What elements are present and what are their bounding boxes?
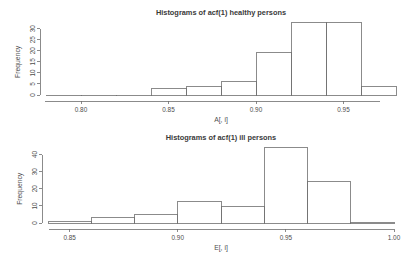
histogram-bar xyxy=(48,221,91,223)
histogram-bar xyxy=(264,148,307,223)
y-tick-label: 0 xyxy=(31,221,38,225)
histogram-bar xyxy=(81,95,116,96)
y-axis-label: Frequency xyxy=(14,45,22,78)
histogram-bar xyxy=(46,95,81,96)
x-tick-label: 0.80 xyxy=(75,106,88,113)
x-axis-label: A[, i] xyxy=(214,116,228,124)
x-tick-label: 1.00 xyxy=(388,234,401,241)
histogram-bar xyxy=(186,86,221,95)
histogram-bar xyxy=(291,22,326,95)
histogram-panel-healthy: Histograms of acf(1) healthy persons0510… xyxy=(0,0,417,128)
histogram-bar xyxy=(308,182,351,223)
histogram-panel-ill: Histograms of acf(1) ill persons01020304… xyxy=(0,128,417,256)
histogram-bar xyxy=(91,218,134,223)
y-axis-label: Frequency xyxy=(16,172,24,205)
x-tick-label: 0.85 xyxy=(63,234,76,241)
histogram-plot-ill: Histograms of acf(1) ill persons01020304… xyxy=(0,128,417,256)
histogram-bar xyxy=(351,222,394,223)
histogram-bar xyxy=(221,82,256,95)
chart-title: Histograms of acf(1) ill persons xyxy=(166,133,276,142)
chart-title: Histograms of acf(1) healthy persons xyxy=(156,8,286,17)
x-tick-label: 0.85 xyxy=(162,106,175,113)
histogram-bar xyxy=(116,95,151,96)
y-tick-label: 5 xyxy=(29,82,36,86)
y-tick-label: 30 xyxy=(31,168,38,176)
histogram-bar xyxy=(151,88,186,95)
x-tick-label: 0.95 xyxy=(280,234,293,241)
y-tick-label: 0 xyxy=(29,93,36,97)
y-tick-label: 30 xyxy=(29,25,36,33)
histogram-bar xyxy=(256,53,291,95)
histogram-bar xyxy=(135,214,178,223)
y-tick-label: 20 xyxy=(31,185,38,193)
x-tick-label: 0.90 xyxy=(172,234,185,241)
y-tick-label: 10 xyxy=(29,69,36,77)
y-tick-label: 10 xyxy=(31,202,38,210)
y-tick-label: 20 xyxy=(29,47,36,55)
histogram-bar xyxy=(221,207,264,223)
x-axis-label: E[, i] xyxy=(214,244,228,252)
histogram-bar xyxy=(361,86,396,95)
y-tick-label: 15 xyxy=(29,58,36,66)
histogram-bar xyxy=(326,22,361,95)
y-tick-label: 25 xyxy=(29,36,36,44)
y-tick-label: 40 xyxy=(31,151,38,159)
histogram-bar xyxy=(178,202,221,223)
histogram-plot-healthy: Histograms of acf(1) healthy persons0510… xyxy=(0,0,417,128)
x-tick-label: 0.90 xyxy=(250,106,263,113)
x-tick-label: 0.95 xyxy=(337,106,350,113)
